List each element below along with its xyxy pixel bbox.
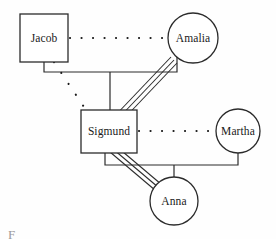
node-label-jacob: Jacob [31,32,58,44]
connector-layer [44,57,238,177]
node-martha[interactable]: Martha [216,109,260,153]
node-amalia[interactable]: Amalia [168,13,218,63]
node-label-amalia: Amalia [176,32,210,44]
node-sigmund[interactable]: Sigmund [81,110,137,153]
node-label-anna: Anna [161,195,186,207]
node-jacob[interactable]: Jacob [20,14,68,62]
link-jacob-sigmund [54,62,86,110]
genogram-canvas: Jacob Amalia Sigmund Martha Anna F [0,0,276,239]
node-label-martha: Martha [221,125,255,137]
node-label-sigmund: Sigmund [88,125,130,138]
caption-fragment: F [8,227,15,239]
node-anna[interactable]: Anna [150,177,198,225]
genogram-diagram: Jacob Amalia Sigmund Martha Anna F [0,0,276,239]
